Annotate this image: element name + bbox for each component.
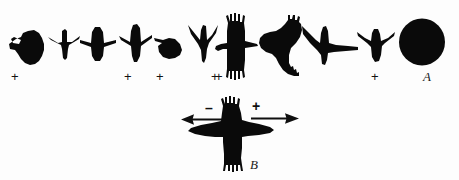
panel-b-label: B [250, 158, 258, 171]
silhouette-4-slender-swept-wings [118, 22, 154, 64]
plus-mark-4: + [124, 70, 132, 83]
silhouette-3-broad-body-straight-wings [78, 24, 118, 64]
plus-mark-7: + [215, 70, 223, 83]
silhouette-1-stocky-short-wings [8, 24, 48, 66]
plus-mark-1: + [11, 70, 19, 83]
plus-mark-5: + [156, 70, 164, 83]
silhouette-10-compact-pointed-wings [355, 27, 397, 65]
silhouette-9-long-tailed-accipiter [300, 22, 360, 68]
silhouette-b-spread-wing-bird [185, 96, 277, 172]
plus-mark-10: + [371, 70, 379, 83]
figure-canvas: + + + [0, 0, 459, 180]
panel-a-label: A [423, 70, 431, 83]
silhouette-2-slim-straight-wings [46, 27, 82, 63]
silhouette-5-fan-tail-short-wings [153, 31, 183, 61]
silhouette-11-solid-disk [398, 18, 446, 66]
